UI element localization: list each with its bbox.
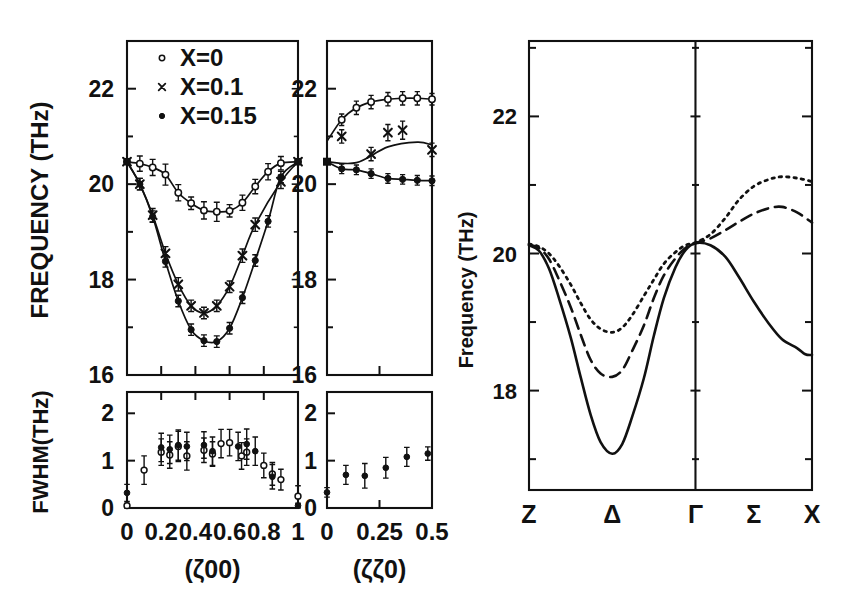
y-tick-label: 22 <box>493 104 517 129</box>
marker-open-circle <box>239 200 245 206</box>
marker-filled-circle <box>252 448 258 454</box>
marker-filled-circle <box>385 175 391 181</box>
y-tick-label: 16 <box>88 362 114 388</box>
marker-filled-circle <box>295 503 301 509</box>
dispersion-panel: 182022 <box>493 41 812 490</box>
y-tick-label: 20 <box>291 171 317 197</box>
marker-filled-circle <box>162 258 168 264</box>
y-tick-label: 1 <box>101 448 114 474</box>
legend: X=0X=0.1X=0.15 <box>159 44 257 129</box>
marker-open-circle <box>368 99 374 105</box>
marker-open-circle <box>227 440 233 446</box>
y-tick-label: 0 <box>304 495 317 521</box>
marker-open-circle <box>265 169 271 175</box>
x-axis-label-zetazeta0: (ζζ0) <box>353 555 407 583</box>
marker-filled-circle <box>175 442 181 448</box>
marker-filled-circle <box>210 448 216 454</box>
freq-zetazeta0-panel: 16182022 <box>291 41 432 388</box>
marker-filled-circle <box>368 171 374 177</box>
marker-filled-circle <box>324 490 330 496</box>
marker-open-circle <box>261 462 267 468</box>
y-tick-label: 22 <box>88 76 114 102</box>
marker-open-circle <box>218 441 224 447</box>
marker-filled-circle <box>353 167 359 173</box>
series2-X0 <box>339 92 436 126</box>
marker-open-circle <box>137 160 143 166</box>
series-X015 <box>124 159 301 348</box>
marker-filled-circle <box>214 339 220 345</box>
marker-filled-circle <box>201 442 207 448</box>
marker-filled-circle <box>404 454 410 460</box>
marker-open-circle <box>162 171 168 177</box>
marker-open-circle <box>159 55 164 60</box>
phonon-dispersion-figure: 16182022X=0X=0.1X=0.151618202201200.20.4… <box>0 0 858 604</box>
x-tick-label-Z: Z <box>521 500 536 528</box>
marker-open-circle <box>353 105 359 111</box>
x-tick-label: 0.4 <box>179 518 213 545</box>
marker-filled-circle <box>227 325 233 331</box>
marker-open-circle <box>149 164 155 170</box>
marker-filled-circle <box>235 444 241 450</box>
x-tick-label: 1 <box>291 518 304 545</box>
marker-filled-circle <box>429 178 435 184</box>
y-tick-label: 16 <box>291 362 317 388</box>
marker-open-circle <box>278 477 284 483</box>
y-tick-label: 18 <box>493 379 517 404</box>
marker-filled-circle <box>324 159 330 165</box>
marker-open-circle <box>399 95 405 101</box>
marker-cross <box>159 84 166 91</box>
fit-curve-X01 <box>327 142 432 163</box>
marker-open-circle <box>188 200 194 206</box>
marker-filled-circle <box>124 159 130 165</box>
x-tick-label-Γ: Γ <box>688 500 703 528</box>
y-tick-label: 20 <box>493 242 517 267</box>
y-tick-label: 20 <box>88 171 114 197</box>
marker-open-circle <box>278 160 284 166</box>
marker-filled-circle <box>124 490 130 496</box>
x-tick-label: 0.25 <box>356 518 403 545</box>
y-tick-label: 1 <box>304 448 317 474</box>
y-axis-label-frequency-calc: Frequency (THz) <box>455 212 477 369</box>
marker-open-circle <box>295 493 301 499</box>
legend-label-2: X=0.15 <box>180 102 257 129</box>
fwhm2-series-X015 <box>324 447 431 497</box>
axis-titles: FREQUENCY (THz)FWHM(THz)Frequency (THz) <box>26 102 477 514</box>
marker-open-circle <box>201 207 207 213</box>
y-tick-label: 18 <box>88 267 114 293</box>
x-axis-label-zeta00: (ζ00) <box>185 555 241 583</box>
marker-open-circle <box>141 467 147 473</box>
marker-filled-circle <box>278 174 284 180</box>
fit-curve-X01 <box>127 162 298 313</box>
marker-filled-circle <box>383 465 389 471</box>
y-axis-label-fwhm: FWHM(THz) <box>28 390 53 513</box>
marker-filled-circle <box>159 113 164 118</box>
marker-open-circle <box>124 503 130 509</box>
y-axis-label-frequency: FREQUENCY (THz) <box>26 102 53 319</box>
marker-filled-circle <box>188 327 194 333</box>
fwhm-series-X015 <box>124 429 301 509</box>
marker-open-circle <box>252 183 258 189</box>
marker-open-circle <box>226 208 232 214</box>
dispersion-x-tick-labels: ZΔΓΣX <box>521 500 820 528</box>
marker-filled-circle <box>137 181 143 187</box>
y-tick-label: 18 <box>291 267 317 293</box>
marker-filled-circle <box>239 295 245 301</box>
x-tick-label: 0.2 <box>145 518 178 545</box>
x-tick-label: 0.8 <box>247 518 280 545</box>
y-tick-label: 2 <box>304 400 317 426</box>
marker-filled-circle <box>252 257 258 263</box>
series2-X01 <box>338 121 436 161</box>
x-tick-label-X: X <box>804 500 821 528</box>
marker-filled-circle <box>425 451 431 457</box>
marker-filled-circle <box>269 474 275 480</box>
x-tick-label-Σ: Σ <box>746 500 761 528</box>
x-tick-label: 0 <box>320 518 333 545</box>
fwhm2-x-tick-labels: 00.250.5(ζζ0) <box>320 518 448 583</box>
x-tick-label: 0 <box>120 518 133 545</box>
series-X01 <box>123 158 302 319</box>
marker-filled-circle <box>295 159 301 165</box>
x-tick-label-Δ: Δ <box>603 500 621 528</box>
y-tick-label: 22 <box>291 76 317 102</box>
legend-label-0: X=0 <box>180 44 223 71</box>
dispersion-branch-dashed <box>529 207 812 377</box>
